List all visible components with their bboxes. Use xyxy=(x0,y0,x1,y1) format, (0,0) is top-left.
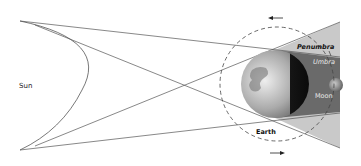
ray-top-outer xyxy=(20,21,340,57)
label-umbra: Umbra xyxy=(313,58,335,66)
arrow-top-icon xyxy=(268,16,283,20)
label-earth: Earth xyxy=(256,128,276,136)
label-penumbra: Penumbra xyxy=(297,43,334,51)
label-sun: Sun xyxy=(19,82,32,90)
eclipse-diagram: Sun Penumbra Umbra Moon Earth xyxy=(0,0,361,166)
label-moon: Moon xyxy=(315,92,333,100)
arrow-bottom-icon xyxy=(270,151,285,155)
diagram-graphic xyxy=(0,0,361,166)
moon-body xyxy=(329,78,343,92)
ray-bottom-outer xyxy=(20,113,340,150)
